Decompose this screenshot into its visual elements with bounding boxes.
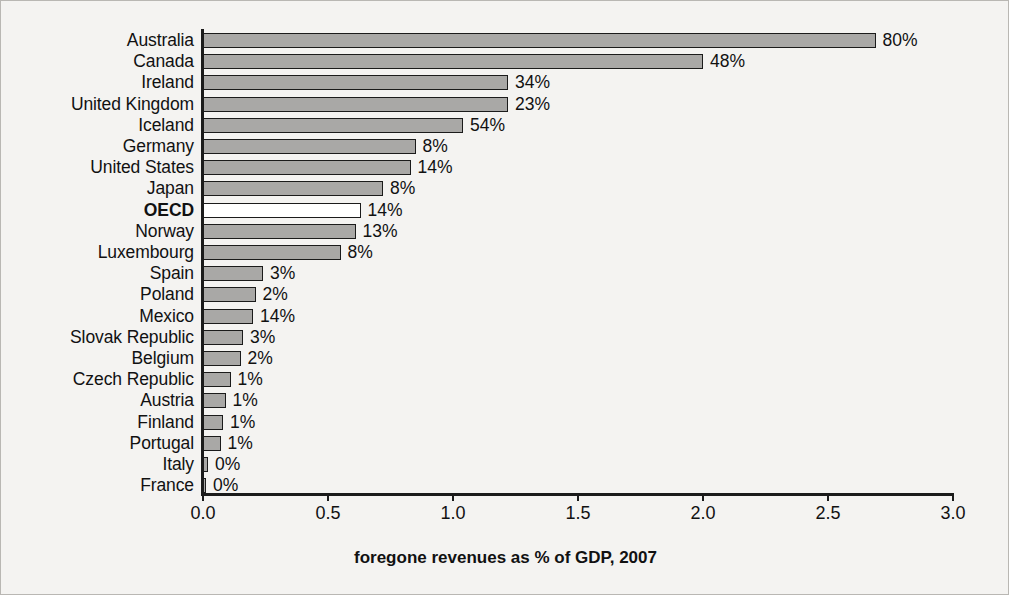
bar-row: Austria1% bbox=[1, 390, 1009, 412]
x-tick-mark bbox=[327, 493, 329, 501]
bar-oecd bbox=[203, 203, 361, 218]
bar-value-label: 1% bbox=[238, 369, 263, 391]
bar-italy bbox=[203, 457, 208, 472]
category-label-austria: Austria bbox=[140, 390, 194, 412]
bar-value-label: 2% bbox=[248, 348, 273, 370]
x-tick-mark bbox=[452, 493, 454, 501]
category-label-slovak-republic: Slovak Republic bbox=[70, 327, 194, 349]
category-label-canada: Canada bbox=[133, 51, 194, 73]
bar-row: Australia80% bbox=[1, 30, 1009, 52]
bar-spain bbox=[203, 266, 263, 281]
category-label-belgium: Belgium bbox=[131, 348, 194, 370]
bar-value-label: 54% bbox=[470, 115, 505, 137]
bar-poland bbox=[203, 287, 256, 302]
bar-iceland bbox=[203, 118, 463, 133]
bar-value-label: 14% bbox=[418, 157, 453, 179]
category-label-poland: Poland bbox=[140, 284, 194, 306]
bar-austria bbox=[203, 393, 226, 408]
bar-slovak-republic bbox=[203, 330, 243, 345]
bar-value-label: 34% bbox=[515, 72, 550, 94]
x-axis-title: foregone revenues as % of GDP, 2007 bbox=[1, 548, 1009, 568]
category-label-finland: Finland bbox=[137, 412, 194, 434]
bar-row: United States14% bbox=[1, 157, 1009, 179]
bar-value-label: 14% bbox=[260, 306, 295, 328]
bar-value-label: 48% bbox=[710, 51, 745, 73]
bar-row: Japan8% bbox=[1, 178, 1009, 200]
bar-value-label: 23% bbox=[515, 94, 550, 116]
bar-value-label: 0% bbox=[215, 454, 240, 476]
category-label-luxembourg: Luxembourg bbox=[98, 242, 194, 264]
bar-row: Belgium2% bbox=[1, 348, 1009, 370]
category-label-france: France bbox=[140, 475, 194, 497]
category-label-united-states: United States bbox=[90, 157, 194, 179]
bar-value-label: 8% bbox=[423, 136, 448, 158]
bar-luxembourg bbox=[203, 245, 341, 260]
bar-value-label: 8% bbox=[348, 242, 373, 264]
category-label-germany: Germany bbox=[123, 136, 194, 158]
bar-value-label: 1% bbox=[233, 390, 258, 412]
x-tick-mark bbox=[577, 493, 579, 501]
x-tick-label: 2.5 bbox=[788, 503, 868, 524]
bar-row: Czech Republic1% bbox=[1, 369, 1009, 391]
bar-australia bbox=[203, 33, 876, 48]
x-tick-label: 1.5 bbox=[538, 503, 618, 524]
category-label-mexico: Mexico bbox=[139, 306, 194, 328]
bar-germany bbox=[203, 139, 416, 154]
bar-united-kingdom bbox=[203, 97, 508, 112]
category-label-italy: Italy bbox=[162, 454, 194, 476]
bar-canada bbox=[203, 54, 703, 69]
bar-row: Slovak Republic3% bbox=[1, 327, 1009, 349]
category-label-spain: Spain bbox=[150, 263, 194, 285]
x-tick-mark bbox=[952, 493, 954, 501]
x-tick-label: 2.0 bbox=[663, 503, 743, 524]
bar-value-label: 13% bbox=[363, 221, 398, 243]
bar-row: Ireland34% bbox=[1, 72, 1009, 94]
y-axis-line bbox=[201, 29, 204, 495]
bar-row: Spain3% bbox=[1, 263, 1009, 285]
x-tick-label: 3.0 bbox=[913, 503, 993, 524]
bar-row: Luxembourg8% bbox=[1, 242, 1009, 264]
chart-screenshot: Australia80%Canada48%Ireland34%United Ki… bbox=[0, 0, 1009, 595]
category-label-united-kingdom: United Kingdom bbox=[71, 94, 194, 116]
bar-belgium bbox=[203, 351, 241, 366]
category-label-australia: Australia bbox=[127, 30, 194, 52]
bar-value-label: 80% bbox=[883, 30, 918, 52]
bar-row: Germany8% bbox=[1, 136, 1009, 158]
bar-united-states bbox=[203, 160, 411, 175]
bar-row: Finland1% bbox=[1, 412, 1009, 434]
bar-row: Italy0% bbox=[1, 454, 1009, 476]
category-label-japan: Japan bbox=[147, 178, 194, 200]
bar-norway bbox=[203, 224, 356, 239]
category-label-oecd: OECD bbox=[144, 200, 194, 222]
bar-value-label: 3% bbox=[270, 263, 295, 285]
category-label-portugal: Portugal bbox=[130, 433, 194, 455]
bar-value-label: 1% bbox=[230, 412, 255, 434]
bar-row: United Kingdom23% bbox=[1, 94, 1009, 116]
x-tick-label: 0.0 bbox=[163, 503, 243, 524]
x-tick-mark bbox=[827, 493, 829, 501]
bar-row: Mexico14% bbox=[1, 306, 1009, 328]
bar-czech-republic bbox=[203, 372, 231, 387]
bar-row: Iceland54% bbox=[1, 115, 1009, 137]
x-tick-label: 0.5 bbox=[288, 503, 368, 524]
bar-row: OECD14% bbox=[1, 200, 1009, 222]
bar-row: Portugal1% bbox=[1, 433, 1009, 455]
bar-mexico bbox=[203, 309, 253, 324]
bar-portugal bbox=[203, 436, 221, 451]
bar-value-label: 2% bbox=[263, 284, 288, 306]
bar-ireland bbox=[203, 75, 508, 90]
category-label-czech-republic: Czech Republic bbox=[73, 369, 194, 391]
bar-value-label: 14% bbox=[368, 200, 403, 222]
bar-chart-plot-area: Australia80%Canada48%Ireland34%United Ki… bbox=[1, 1, 1009, 595]
bar-value-label: 3% bbox=[250, 327, 275, 349]
bar-row: Poland2% bbox=[1, 284, 1009, 306]
bar-japan bbox=[203, 181, 383, 196]
bar-value-label: 8% bbox=[390, 178, 415, 200]
category-label-ireland: Ireland bbox=[141, 72, 194, 94]
category-label-iceland: Iceland bbox=[138, 115, 194, 137]
bar-row: Norway13% bbox=[1, 221, 1009, 243]
category-label-norway: Norway bbox=[135, 221, 194, 243]
x-tick-label: 1.0 bbox=[413, 503, 493, 524]
x-tick-mark bbox=[702, 493, 704, 501]
bar-row: Canada48% bbox=[1, 51, 1009, 73]
